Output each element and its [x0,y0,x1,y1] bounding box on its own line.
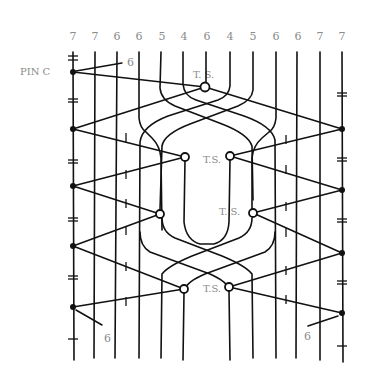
pair-count-6: 4 [181,30,188,43]
side-label-top: 6 [127,56,134,69]
ts-ring-lower-left [180,285,188,293]
pair-count-13: 7 [339,30,346,43]
pair-count-1: 7 [70,30,77,43]
pair-count-4: 6 [136,30,143,43]
ts-label-lower: T.S. [203,283,221,294]
edge-pins [70,69,345,316]
pin-c-label: PIN C [20,66,51,77]
pair-count-8: 4 [227,30,234,43]
ts-pins [156,83,257,294]
pair-count-7: 6 [204,30,211,43]
pair-count-9: 5 [250,30,257,43]
inner-threads [139,52,276,360]
pair-count-11: 6 [295,30,302,43]
ts-label-top: T. S. [193,69,214,80]
ts-ring-middle-left [156,210,164,218]
side-label-bottom-right: 6 [304,330,311,343]
ts-ring-middle-right [249,209,257,217]
lace-diagram: 7 7 6 6 5 4 6 4 5 6 6 7 7 PIN C 6 6 6 T.… [0,0,369,380]
side-label-bottom-left: 6 [104,332,111,345]
pair-count-2: 7 [92,30,99,43]
ts-ring-upper-left [181,153,189,161]
pair-count-3: 6 [114,30,121,43]
passive-threads [73,52,343,362]
ts-ring-lower-right [225,283,233,291]
ts-ring-upper-right [226,152,234,160]
ts-ring-top [201,83,210,92]
pair-count-labels: 7 7 6 6 5 4 6 4 5 6 6 7 7 [70,30,346,43]
pair-count-5: 5 [159,30,166,43]
pair-count-10: 6 [273,30,280,43]
ts-label-upper: T.S. [203,154,221,165]
tick-marks [68,56,347,346]
pair-count-12: 7 [317,30,324,43]
pin-c [70,69,76,75]
